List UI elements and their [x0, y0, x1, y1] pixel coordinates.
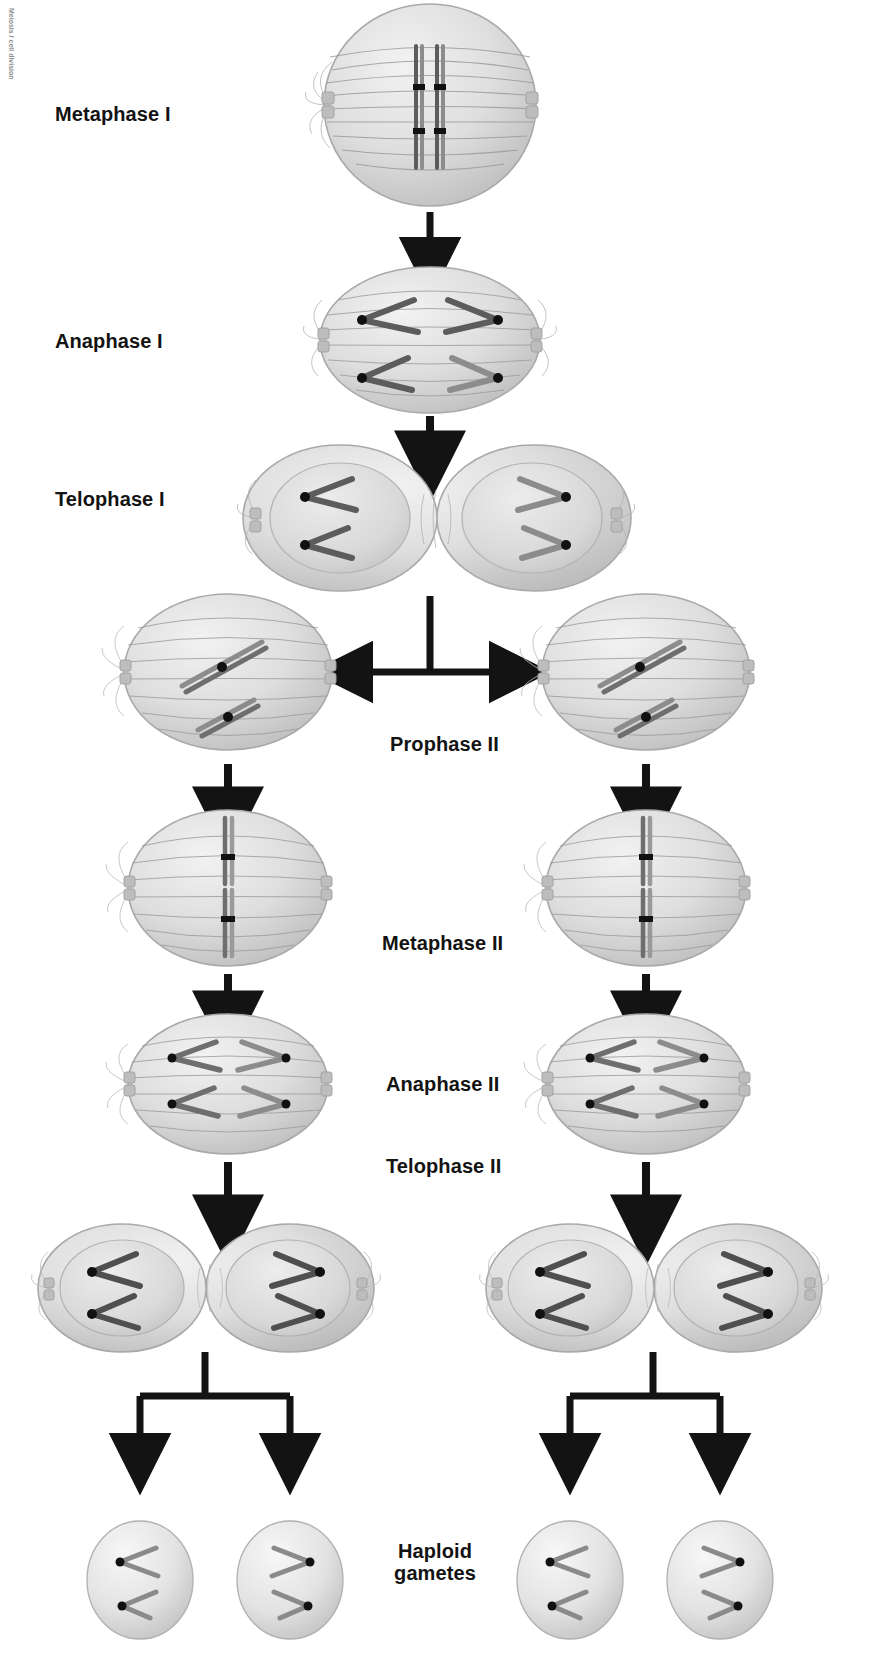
- cell-metaphase-ii-left: [106, 810, 332, 966]
- stage-label-anaphase-ii: Anaphase II: [386, 1073, 499, 1095]
- stage-label-metaphase-ii: Metaphase II: [382, 932, 503, 954]
- cell-anaphase-i: [303, 267, 556, 413]
- cell-metaphase-ii-right: [524, 810, 750, 966]
- arrow-telophase-i-split: [358, 596, 504, 672]
- cell-anaphase-ii-right: [524, 1014, 750, 1154]
- stage-label-metaphase-i: Metaphase I: [55, 103, 171, 125]
- cell-telophase-i: [237, 445, 634, 591]
- cell-gamete-4: [667, 1521, 773, 1639]
- cell-gamete-3: [517, 1521, 623, 1639]
- cell-gamete-2: [237, 1521, 343, 1639]
- stage-label-telophase-ii: Telophase II: [386, 1155, 501, 1177]
- stage-label-telophase-i: Telophase I: [55, 488, 165, 510]
- stage-label-haploid-gametes: Haploid gametes: [380, 1540, 490, 1585]
- cell-prophase-ii-left: [102, 594, 336, 750]
- cell-prophase-ii-right: [520, 594, 754, 750]
- meiosis-diagram: Meiosis / cell division: [0, 0, 875, 1667]
- cell-telophase-ii-right: [479, 1224, 828, 1352]
- cell-anaphase-ii-left: [106, 1014, 332, 1154]
- arrow-telophase-ii-left-split: [140, 1352, 290, 1448]
- cell-telophase-ii-left: [31, 1224, 380, 1352]
- cell-gamete-1: [87, 1521, 193, 1639]
- cell-metaphase-i: [306, 4, 539, 206]
- diagram-artwork: [0, 0, 875, 1667]
- arrow-telophase-ii-right-split: [570, 1352, 720, 1448]
- stage-label-prophase-ii: Prophase II: [390, 733, 499, 755]
- stage-label-anaphase-i: Anaphase I: [55, 330, 163, 352]
